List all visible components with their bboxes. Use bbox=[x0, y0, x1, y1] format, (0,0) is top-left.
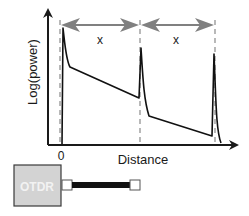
event-markers bbox=[60, 20, 215, 145]
origin-label: 0 bbox=[58, 149, 65, 163]
y-axis-label: Log(power) bbox=[25, 39, 40, 105]
span-arrows bbox=[61, 18, 214, 32]
otdr-device-label: OTDR bbox=[20, 180, 54, 194]
span-label-2: x bbox=[173, 33, 179, 47]
fiber-cable bbox=[72, 182, 130, 188]
x-axis-label: Distance bbox=[118, 152, 169, 167]
otdr-diagram: x x Log(power) 0 Distance OTDR bbox=[0, 0, 249, 216]
connector-far bbox=[130, 180, 140, 190]
otdr-trace bbox=[62, 28, 221, 145]
span-label-1: x bbox=[97, 33, 103, 47]
connector-near bbox=[62, 180, 72, 190]
